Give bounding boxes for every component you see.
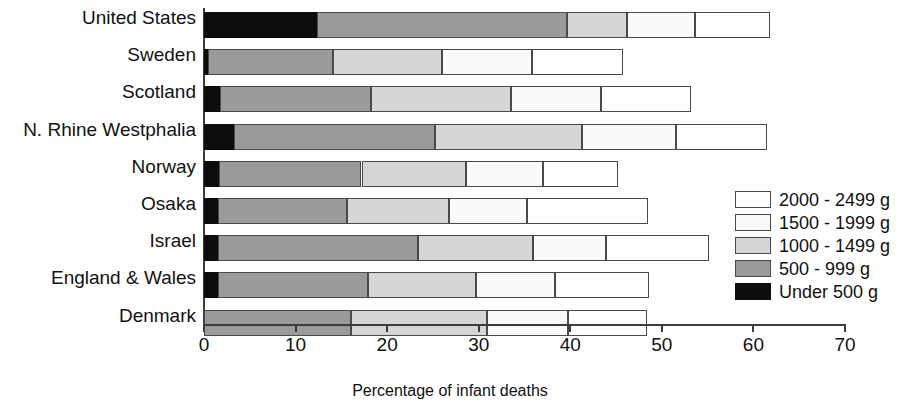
bar-segment xyxy=(317,12,567,38)
x-tick xyxy=(569,324,571,332)
bar-segment xyxy=(368,272,476,298)
category-label: N. Rhine Westphalia xyxy=(23,120,196,139)
bar-segment xyxy=(555,272,649,298)
x-tick-label: 30 xyxy=(468,335,489,355)
bar-segment xyxy=(601,86,691,112)
x-tick xyxy=(478,324,480,332)
bar-segment xyxy=(204,124,234,150)
legend-label: Under 500 g xyxy=(779,283,878,301)
x-tick xyxy=(295,324,297,332)
legend: 2000 - 2499 g1500 - 1999 g1000 - 1499 g5… xyxy=(735,188,890,303)
legend-swatch xyxy=(735,283,771,300)
stacked-bar-chart: United StatesSwedenScotlandN. Rhine West… xyxy=(0,0,900,411)
category-label: Norway xyxy=(132,157,196,176)
legend-label: 1000 - 1499 g xyxy=(779,237,890,255)
category-label: England & Wales xyxy=(51,268,196,287)
x-tick-label: 70 xyxy=(834,335,855,355)
bar-segment xyxy=(218,235,419,261)
x-tick-label: 40 xyxy=(560,335,581,355)
bar-segment xyxy=(568,310,647,336)
bar-segment xyxy=(204,272,218,298)
x-tick xyxy=(844,324,846,332)
legend-swatch xyxy=(735,214,771,231)
bar-segment xyxy=(567,12,627,38)
x-axis: 010203040506070 xyxy=(204,324,845,325)
legend-item: Under 500 g xyxy=(735,280,890,303)
bar-segment xyxy=(220,86,371,112)
x-tick xyxy=(661,324,663,332)
x-tick-label: 60 xyxy=(743,335,764,355)
category-label: Denmark xyxy=(119,306,196,325)
bar-segment xyxy=(527,198,648,224)
bar-segment xyxy=(204,198,218,224)
x-axis-title: Percentage of infant deaths xyxy=(0,382,900,400)
bar-segment xyxy=(333,49,442,75)
x-tick-label: 20 xyxy=(377,335,398,355)
bar-segment xyxy=(204,12,317,38)
legend-item: 500 - 999 g xyxy=(735,257,890,280)
legend-label: 1500 - 1999 g xyxy=(779,214,890,232)
bar-segment xyxy=(218,272,368,298)
bar-segment xyxy=(476,272,555,298)
bar-segment xyxy=(208,49,333,75)
bar-segment xyxy=(204,161,219,187)
legend-label: 2000 - 2499 g xyxy=(779,191,890,209)
legend-item: 2000 - 2499 g xyxy=(735,188,890,211)
bar-segment xyxy=(606,235,709,261)
bar-segment xyxy=(219,161,362,187)
bar-segment xyxy=(627,12,695,38)
bar-segment xyxy=(234,124,435,150)
bar-segment xyxy=(371,86,511,112)
bar-segment xyxy=(204,86,220,112)
bar-segment xyxy=(532,49,624,75)
legend-label: 500 - 999 g xyxy=(779,260,870,278)
x-tick-label: 10 xyxy=(285,335,306,355)
bar-segment xyxy=(351,310,487,336)
x-tick-label: 50 xyxy=(651,335,672,355)
legend-swatch xyxy=(735,260,771,277)
bar-segment xyxy=(533,235,606,261)
bar-segment xyxy=(511,86,602,112)
x-tick xyxy=(203,324,205,332)
bar-segment xyxy=(582,124,675,150)
legend-swatch xyxy=(735,237,771,254)
category-label: United States xyxy=(82,8,196,27)
bar-segment xyxy=(442,49,532,75)
bar-segment xyxy=(487,310,568,336)
bar-segment xyxy=(449,198,527,224)
bar-segment xyxy=(435,124,582,150)
bar-segment xyxy=(362,161,466,187)
category-label: Israel xyxy=(150,231,196,250)
x-tick xyxy=(752,324,754,332)
bar-segment xyxy=(347,198,450,224)
bar-segment xyxy=(218,198,347,224)
category-label: Osaka xyxy=(141,194,196,213)
bar-segment xyxy=(204,235,218,261)
bar-segment xyxy=(466,161,543,187)
category-axis-labels: United StatesSwedenScotlandN. Rhine West… xyxy=(0,0,196,340)
x-tick-label: 0 xyxy=(199,335,210,355)
x-axis-line xyxy=(204,324,845,326)
category-label: Scotland xyxy=(122,82,196,101)
bar-segment xyxy=(543,161,618,187)
category-label: Sweden xyxy=(127,45,196,64)
legend-item: 1000 - 1499 g xyxy=(735,234,890,257)
legend-item: 1500 - 1999 g xyxy=(735,211,890,234)
bar-segment xyxy=(204,310,351,336)
bar-segment xyxy=(676,124,768,150)
legend-swatch xyxy=(735,191,771,208)
bar-segment xyxy=(418,235,532,261)
bar-segment xyxy=(695,12,770,38)
x-tick xyxy=(386,324,388,332)
